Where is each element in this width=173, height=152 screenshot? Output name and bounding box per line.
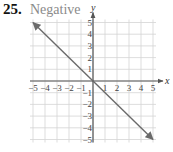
x-tick-label: −3 — [52, 83, 62, 93]
y-tick-label: −1 — [82, 88, 92, 98]
x-axis-label: x — [164, 75, 170, 86]
y-tick-label: 5 — [88, 18, 93, 28]
y-tick-label: 1 — [88, 64, 93, 74]
x-tick-label: 3 — [127, 83, 132, 93]
y-tick-label: 4 — [88, 29, 93, 39]
y-tick-label: 2 — [88, 53, 93, 63]
y-tick-label: −5 — [82, 135, 92, 145]
x-tick-label: 2 — [115, 83, 120, 93]
y-tick-label: −2 — [82, 99, 92, 109]
x-tick-label: −5 — [28, 83, 38, 93]
coordinate-graph: xy−5−4−3−2−11234554321−1−2−3−4−5 — [0, 0, 173, 152]
y-tick-label: −4 — [82, 123, 92, 133]
x-tick-label: 5 — [151, 83, 156, 93]
y-tick-label: −3 — [82, 111, 92, 121]
x-tick-label: −2 — [64, 83, 74, 93]
y-axis-label: y — [90, 2, 96, 13]
y-tick-label: 3 — [88, 41, 93, 51]
x-tick-label: −4 — [40, 83, 50, 93]
x-tick-label: 4 — [139, 83, 144, 93]
